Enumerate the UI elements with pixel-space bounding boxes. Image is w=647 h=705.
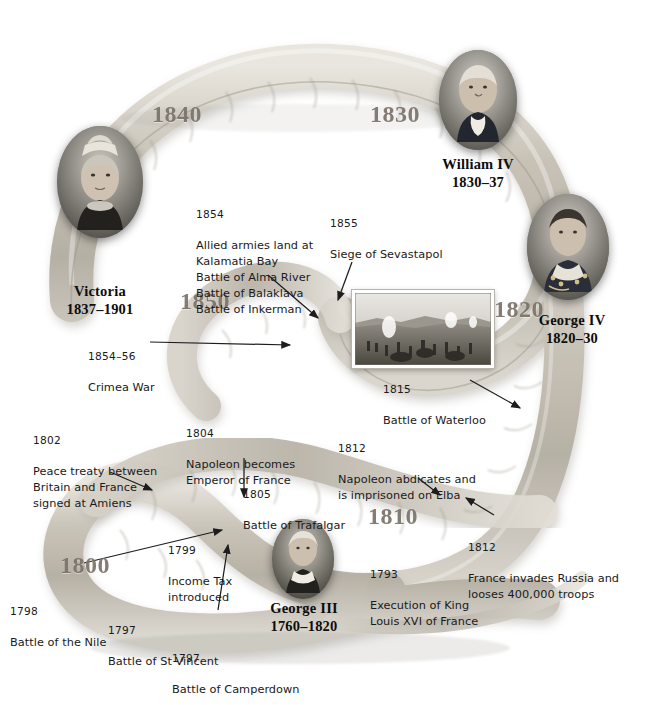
event-body: Crimea War (88, 380, 198, 396)
event-body: Income Tax introduced (168, 574, 268, 606)
portrait-william-iv[interactable] (439, 50, 517, 150)
monarch-name: William IV (417, 156, 539, 174)
event-crimea-war: 1854–56 Crimea War (88, 333, 198, 412)
event-body: Peace treaty between Britain and France … (33, 464, 183, 512)
decade-marker-1820: 1820 (494, 296, 544, 323)
event-year: 1793 (370, 567, 510, 582)
event-year: 1797 (172, 651, 332, 666)
event-year: 1804 (186, 426, 326, 441)
portrait-label-victoria: Victoria 1837–1901 (32, 283, 168, 318)
event-year: 1805 (243, 487, 383, 502)
portrait-victoria[interactable] (57, 126, 143, 238)
monarch-reign: 1830–37 (417, 174, 539, 192)
monarch-reign: 1820–30 (510, 330, 634, 348)
event-siege-of-sevastapol: 1855 Siege of Sevastapol (330, 200, 470, 279)
decade-marker-1840: 1840 (152, 101, 202, 128)
event-battle-of-camperdown: 1797 Battle of Camperdown (172, 635, 332, 705)
battle-engraving-image (355, 293, 491, 365)
decade-marker-1800: 1800 (60, 552, 110, 579)
event-peace-treaty-amiens: 1802 Peace treaty between Britain and Fr… (33, 417, 183, 528)
event-execution-louis-xvi: 1793 Execution of King Louis XVI of Fran… (370, 551, 510, 646)
monarch-name: Victoria (32, 283, 168, 301)
portrait-george-iv[interactable] (527, 194, 609, 300)
event-body: Siege of Sevastapol (330, 247, 470, 263)
timeline-canvas: William IV 1830–37 Victoria 1837–1901 (0, 0, 647, 705)
event-year: 1802 (33, 433, 183, 448)
event-year: 1812 (338, 441, 503, 456)
event-body: Execution of King Louis XVI of France (370, 598, 510, 630)
decade-marker-1830: 1830 (370, 101, 420, 128)
portrait-label-william-iv: William IV 1830–37 (417, 156, 539, 191)
event-year: 1854–56 (88, 349, 198, 364)
event-year: 1799 (168, 543, 268, 558)
monarch-reign: 1837–1901 (32, 301, 168, 319)
event-year: 1815 (383, 382, 523, 397)
battle-engraving-inset[interactable] (352, 290, 494, 368)
event-year: 1855 (330, 216, 470, 231)
event-body: Battle of Camperdown (172, 682, 332, 698)
